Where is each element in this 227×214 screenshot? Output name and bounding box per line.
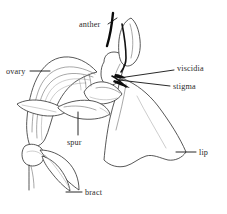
label-bract: bract <box>85 188 103 197</box>
label-viscidia: viscidia <box>177 64 204 73</box>
orchid-line-drawing: anther viscidia stigma ovary spur lip br… <box>0 0 227 214</box>
pedicel-knob <box>22 144 44 166</box>
orchid-diagram-figure: anther viscidia stigma ovary spur lip br… <box>0 0 227 214</box>
label-stigma: stigma <box>173 82 196 91</box>
label-lip: lip <box>199 148 208 157</box>
label-spur: spur <box>67 138 82 147</box>
label-anther: anther <box>79 20 100 29</box>
label-ovary: ovary <box>6 67 26 76</box>
